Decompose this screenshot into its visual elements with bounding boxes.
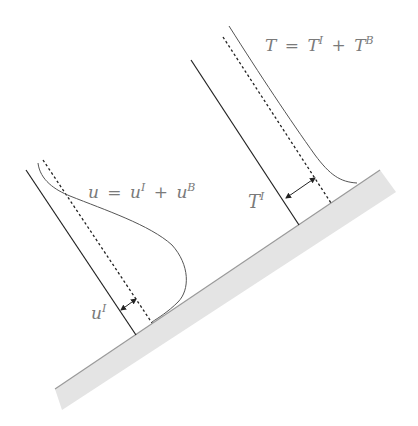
temperature-equation: T = TI + TB [265, 28, 374, 55]
temperature-solid-line [191, 60, 299, 225]
temperature-offset-arrow [286, 178, 315, 198]
boundary-layer-diagram: u = uI + uB uI T = TI + TB TI [0, 0, 418, 426]
temperature-offset-label: TI [248, 190, 265, 212]
velocity-offset-arrow [121, 299, 136, 310]
velocity-equation: u = uI + uB [88, 175, 195, 202]
velocity-profile: u = uI + uB uI [26, 160, 195, 335]
velocity-offset-label: uI [91, 302, 107, 323]
